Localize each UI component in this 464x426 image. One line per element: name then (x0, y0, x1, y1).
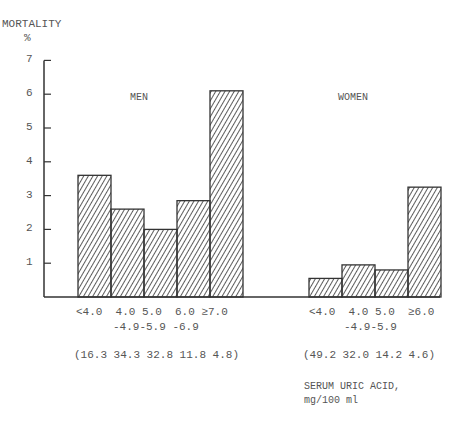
men-x-ticks-row2: -4.9-5.9 -6.9 (113, 321, 199, 334)
men-bar (78, 175, 111, 297)
y-tick-label: 7 (26, 53, 33, 66)
bar-chart (0, 0, 464, 426)
bars (78, 91, 441, 297)
y-tick-label: 3 (26, 189, 33, 202)
women-bar (342, 265, 375, 297)
men-x-ticks-row1: <4.0 4.0 5.0 6.0 ≥7.0 (76, 306, 228, 319)
x-axis-title-line1: SERUM URIC ACID, (304, 380, 400, 393)
women-label: WOMEN (338, 91, 368, 104)
y-tick-label: 1 (26, 256, 33, 269)
women-x-ticks-row1: <4.0 4.0 5.0 ≥6.0 (309, 306, 434, 319)
women-population-pct: (49.2 32.0 14.2 4.6) (303, 349, 435, 362)
women-bar (408, 187, 441, 297)
men-bar (177, 201, 210, 297)
men-bar (144, 229, 177, 297)
x-axis-title-line2: mg/100 ml (304, 394, 358, 407)
women-bar (309, 278, 342, 297)
men-population-pct: (16.3 34.3 32.8 11.8 4.8) (74, 349, 239, 362)
y-tick-label: 2 (26, 222, 33, 235)
y-tick-label: 4 (26, 155, 33, 168)
y-tick-label: 5 (26, 121, 33, 134)
y-tick-label: 6 (26, 87, 33, 100)
women-bar (375, 270, 408, 297)
y-axis-title: MORTALITY (2, 18, 61, 31)
women-x-ticks-row2: -4.9-5.9 (344, 321, 397, 334)
men-bar (210, 91, 243, 297)
men-label: MEN (130, 91, 148, 104)
y-axis-unit: % (24, 32, 31, 45)
men-bar (111, 209, 144, 297)
